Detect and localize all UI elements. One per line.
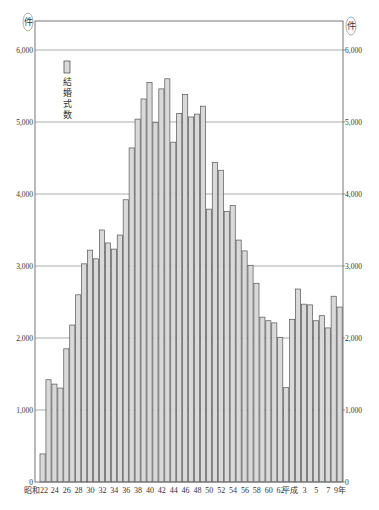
x-tick-label: 42 (158, 486, 166, 495)
bar (129, 148, 134, 482)
bar (325, 328, 330, 482)
legend-char: 数 (63, 109, 72, 120)
y-tick-label-left: 2,000 (16, 334, 33, 343)
bar (171, 142, 176, 482)
unit-label-right: 件 (347, 20, 356, 31)
x-tick-label: 52 (217, 486, 225, 495)
x-tick-label: 40 (146, 486, 154, 495)
legend-label: 結婚式数 (63, 76, 72, 120)
bar (212, 162, 217, 482)
y-axis-unit-right: 件 (346, 17, 356, 35)
x-axis-labels: 昭和22242628303234363840424446485052545658… (24, 485, 346, 495)
bar (307, 305, 312, 482)
x-tick-label: 36 (122, 486, 130, 495)
bar (278, 337, 283, 482)
x-tick-label: 58 (253, 486, 261, 495)
x-tick-label: 44 (170, 486, 178, 495)
bar (117, 235, 122, 482)
bar (242, 251, 247, 482)
bar (290, 319, 295, 482)
bar (194, 114, 199, 482)
bar (40, 454, 45, 482)
x-tick-label: 28 (75, 486, 83, 495)
bar (218, 170, 223, 482)
x-tick-label: 34 (110, 486, 118, 495)
bar (301, 304, 306, 482)
x-tick-label: 7 (326, 486, 330, 495)
bar (254, 283, 259, 482)
x-tick-label: 60 (265, 486, 273, 495)
y-tick-label-left: 1,000 (16, 406, 33, 415)
x-tick-label: 昭和22 (24, 486, 48, 495)
bar (58, 388, 63, 482)
bar (105, 243, 110, 482)
x-tick-label: 46 (182, 486, 190, 495)
bar (93, 259, 98, 482)
x-tick-label: 32 (98, 486, 106, 495)
bar (313, 321, 318, 482)
bar (64, 349, 69, 482)
y-axis-unit-left: 件 (23, 13, 33, 31)
x-tick-label: 48 (193, 486, 201, 495)
legend-char: 婚 (63, 87, 72, 98)
y-tick-label-right: 6,000 (345, 46, 362, 55)
bar (189, 117, 194, 482)
x-tick-label: 54 (229, 486, 237, 495)
bar (177, 113, 182, 482)
y-tick-label-right: 5,000 (345, 118, 362, 127)
bar (147, 82, 152, 482)
bar (295, 289, 300, 482)
x-tick-label: 5 (314, 486, 318, 495)
bar (284, 388, 289, 482)
x-tick-label: 30 (87, 486, 95, 495)
bar (272, 323, 277, 482)
bar (111, 249, 116, 482)
bar (165, 79, 170, 482)
bar (46, 380, 51, 482)
bar (88, 250, 93, 482)
bar (266, 321, 271, 482)
legend-char: 結 (63, 76, 72, 87)
bar (200, 106, 205, 482)
x-tick-label: 平成 (282, 485, 298, 495)
legend-char: 式 (63, 98, 72, 109)
x-tick-label: 38 (134, 486, 142, 495)
bar (70, 325, 75, 482)
x-tick-label: 3 (302, 486, 306, 495)
bar (319, 316, 324, 482)
y-tick-label-left: 3,000 (16, 262, 33, 271)
bar (153, 123, 158, 482)
x-tick-label: 26 (63, 486, 71, 495)
unit-label-left: 件 (24, 16, 33, 27)
y-tick-label-right: 1,000 (345, 406, 362, 415)
x-tick-label: 9年 (334, 485, 346, 495)
bar (206, 209, 211, 482)
y-tick-label-left: 5,000 (16, 118, 33, 127)
bar (52, 384, 57, 482)
y-axis-left-ticks: 01,0002,0003,0004,0005,0006,000 (16, 46, 33, 487)
bars (40, 79, 342, 482)
x-tick-label: 50 (205, 486, 213, 495)
x-tick-label: 56 (241, 486, 249, 495)
bar (337, 307, 342, 482)
bar (183, 95, 188, 482)
y-axis-right-ticks: 01,0002,0003,0004,0005,0006,000 (343, 46, 362, 487)
bar (236, 240, 241, 482)
bar (224, 211, 229, 482)
bar (99, 230, 104, 482)
y-tick-label-right: 2,000 (345, 334, 362, 343)
bar (230, 206, 235, 482)
bar (159, 89, 164, 482)
bar (331, 296, 336, 482)
x-tick-label: 24 (51, 486, 59, 495)
bar (135, 119, 140, 482)
y-tick-label-right: 3,000 (345, 262, 362, 271)
bar (248, 265, 253, 482)
bar (123, 200, 128, 482)
wedding-count-bar-chart: 01,0002,0003,0004,0005,0006,000 01,0002,… (0, 0, 379, 510)
y-tick-label-right: 4,000 (345, 190, 362, 199)
y-tick-label-left: 4,000 (16, 190, 33, 199)
legend: 結婚式数 (63, 61, 72, 120)
legend-swatch (64, 61, 70, 73)
bar (82, 264, 87, 482)
